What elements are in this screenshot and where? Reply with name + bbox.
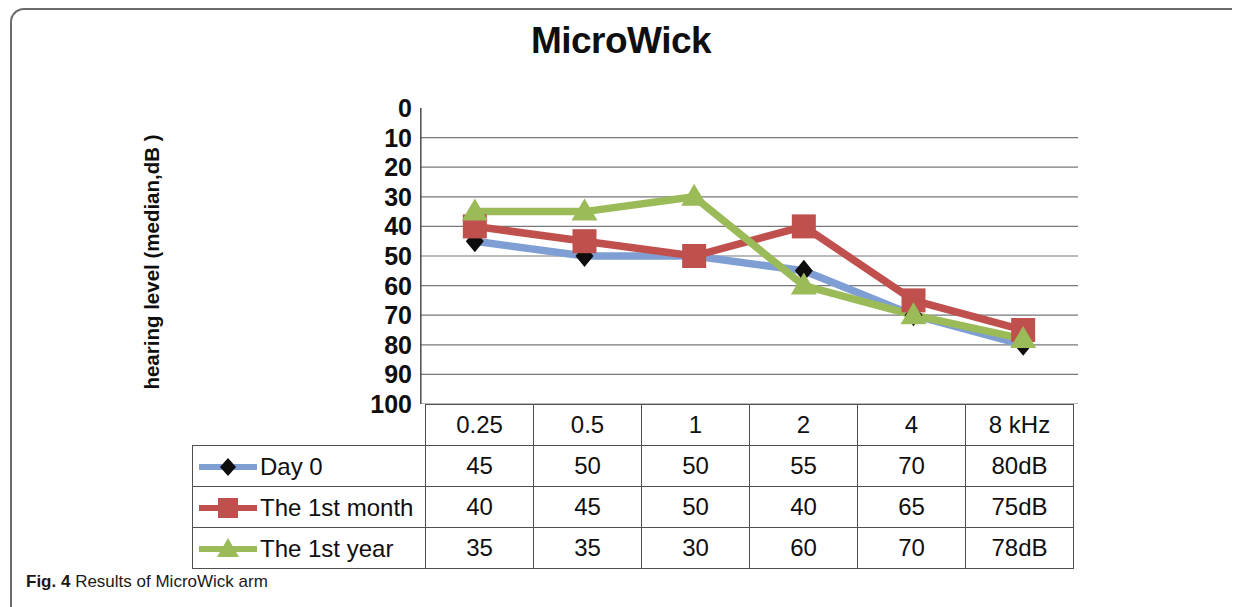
table-cell: 45: [534, 487, 642, 528]
legend-label: The 1st month: [260, 494, 413, 522]
legend-symbol-icon: [197, 495, 259, 521]
table-column-header: 1: [642, 405, 750, 446]
table-cell: 30: [642, 528, 750, 569]
y-tick-label: 30: [330, 184, 412, 209]
table-column-header: 0.5: [534, 405, 642, 446]
legend-symbol-icon: [197, 454, 259, 480]
table-cell: 65: [858, 487, 966, 528]
legend-entry: The 1st month: [193, 487, 426, 528]
legend-label: The 1st year: [260, 535, 393, 563]
table-row: Day 0455050557080dB: [193, 446, 1074, 487]
legend-label: Day 0: [260, 453, 323, 481]
y-tick-label: 20: [330, 155, 412, 180]
series-line: [475, 241, 1023, 345]
table-row: The 1st year353530607078dB: [193, 528, 1074, 569]
y-tick-label: 70: [330, 303, 412, 328]
table-cell: 35: [426, 528, 534, 569]
y-axis-tick-labels: 0102030405060708090100: [330, 95, 412, 405]
y-tick-label: 10: [330, 125, 412, 150]
series-group: [475, 197, 1023, 339]
table-column-header: 2: [750, 405, 858, 446]
chart-plot-svg: [420, 108, 1078, 404]
y-tick-label: 90: [330, 362, 412, 387]
legend-entry: Day 0: [193, 446, 426, 487]
series-group: [475, 241, 1023, 345]
figure-caption: Fig. 4 Results of MicroWick arm: [26, 572, 268, 592]
legend-marker: [218, 498, 238, 518]
y-tick-label: 40: [330, 214, 412, 239]
table-cell: 75dB: [966, 487, 1074, 528]
table-cell: 70: [858, 528, 966, 569]
table-row: The 1st month404550406575dB: [193, 487, 1074, 528]
y-tick-label: 60: [330, 273, 412, 298]
figure-caption-number: Fig. 4: [26, 572, 70, 591]
data-marker-square: [792, 214, 816, 238]
table-cell: 45: [426, 446, 534, 487]
table-cell: 70: [858, 446, 966, 487]
legend-marker-square: [218, 498, 238, 518]
table-column-header: 4: [858, 405, 966, 446]
figure-border-tail: [10, 560, 12, 607]
legend-symbol-icon: [197, 536, 259, 562]
table-cell: 50: [642, 446, 750, 487]
table-cell: 80dB: [966, 446, 1074, 487]
table-column-header: 8 kHz: [966, 405, 1074, 446]
table-body: Day 0455050557080dBThe 1st month40455040…: [193, 446, 1074, 569]
legend-marker: [220, 458, 236, 476]
y-tick-label: 50: [330, 244, 412, 269]
series-line: [475, 197, 1023, 339]
table-column-header: 0.25: [426, 405, 534, 446]
table-cell: 60: [750, 528, 858, 569]
chart-title: MicroWick: [0, 20, 1242, 62]
table-cell: 35: [534, 528, 642, 569]
data-table: 0.250.51248 kHz Day 0455050557080dBThe 1…: [192, 404, 1074, 569]
legend-entry: The 1st year: [193, 528, 426, 569]
table-cell: 40: [750, 487, 858, 528]
table-cell: 78dB: [966, 528, 1074, 569]
table-cell: 50: [642, 487, 750, 528]
y-tick-label: 0: [330, 96, 412, 121]
y-tick-label: 80: [330, 332, 412, 357]
data-marker-square: [682, 244, 706, 268]
table-cell: 50: [534, 446, 642, 487]
table-corner-cell: [193, 405, 426, 446]
table-cell: 55: [750, 446, 858, 487]
y-axis-title: hearing level (median,dB ): [140, 102, 164, 422]
legend-marker-diamond: [220, 458, 236, 476]
data-marker-square: [573, 229, 597, 253]
figure-caption-text: Results of MicroWick arm: [70, 572, 267, 591]
table-cell: 40: [426, 487, 534, 528]
table-header-row: 0.250.51248 kHz: [193, 405, 1074, 446]
plot-area: [420, 108, 1078, 404]
